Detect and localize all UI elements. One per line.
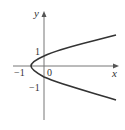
y-axis-label: y	[33, 7, 39, 19]
tick-label-y-1: 1	[35, 46, 40, 57]
parabola-graph: y x 1 −1 0 −1	[0, 0, 125, 130]
y-axis-arrow-icon	[42, 11, 47, 17]
x-axis-label: x	[111, 67, 117, 79]
tick-label-origin: 0	[47, 67, 52, 78]
tick-label-y-neg1: −1	[29, 82, 40, 93]
tick-label-x-neg1: −1	[14, 67, 25, 78]
